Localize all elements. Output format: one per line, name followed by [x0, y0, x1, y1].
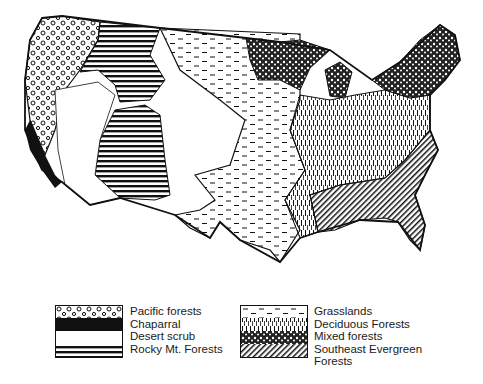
grasslands-swatch [241, 306, 307, 318]
legend-labels-left: Pacific forests Chaparral Desert scrub R… [130, 305, 223, 355]
mixed-forests-swatch [241, 331, 307, 344]
legend-swatches-left [56, 306, 122, 357]
legend-label-chaparral: Chaparral [130, 318, 223, 331]
legend-label-deciduous-forests: Deciduous Forests [314, 318, 422, 331]
legend-label-southeast-evergreen: Southeast Evergreen [314, 343, 422, 356]
legend-label-mixed-forests: Mixed forests [314, 330, 422, 343]
chaparral-swatch [56, 318, 122, 331]
vegetation-map [0, 0, 483, 300]
legend-label-forests: Forests [314, 355, 422, 368]
deciduous-forests-swatch [241, 318, 307, 331]
pacific-forests-swatch [56, 306, 122, 318]
legend-label-desert-scrub: Desert scrub [130, 330, 223, 343]
southeast-evergreen-swatch [241, 344, 307, 357]
legend-labels-right: Grasslands Deciduous Forests Mixed fores… [314, 305, 422, 368]
rocky-mt-forests-swatch [56, 344, 122, 357]
legend-swatches-right [241, 306, 307, 357]
mixed-forests-region-northeast [372, 25, 460, 98]
legend-label-rocky-mt-forests: Rocky Mt. Forests [130, 343, 223, 356]
legend-swatch-column-left [55, 305, 123, 358]
legend-label-pacific-forests: Pacific forests [130, 305, 223, 318]
legend-label-grasslands: Grasslands [314, 305, 422, 318]
desert-scrub-swatch [56, 331, 122, 344]
legend-swatch-column-right [240, 305, 308, 358]
mixed-forests-region-michigan [325, 62, 352, 98]
